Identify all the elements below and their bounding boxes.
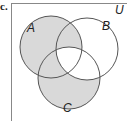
set-a-label: A (26, 21, 35, 35)
universe-label: U (115, 3, 124, 17)
set-b-label: B (102, 19, 110, 33)
set-c-label: C (63, 101, 72, 115)
venn-diagram: A B C U (0, 0, 127, 121)
